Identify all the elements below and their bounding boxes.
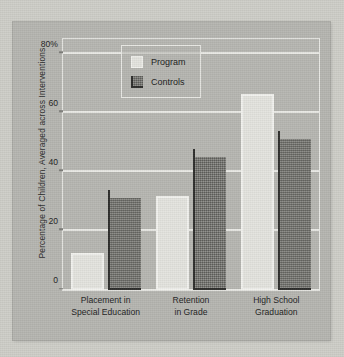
bar-program-placement-in-special-education <box>71 253 104 290</box>
bar-controls-retention-in-grade <box>193 157 226 290</box>
y-axis-tick-80: 80% <box>41 39 58 49</box>
x-axis-label-placement-in-special-education: Placement in Special Education <box>63 295 148 318</box>
y-axis-tick-40: 40 <box>48 157 58 167</box>
x-axis-label-high-school-graduation: High School Graduation <box>234 295 319 318</box>
legend-label-controls: Controls <box>151 77 185 87</box>
legend-swatch-controls-icon <box>131 76 143 88</box>
legend-swatch-program-icon <box>131 56 143 68</box>
y-axis-title: Percentage of Children, Averaged across … <box>37 28 47 278</box>
y-axis-tick-20: 20 <box>48 216 58 226</box>
bar-controls-high-school-graduation <box>278 139 311 290</box>
bar-chart-figure: Percentage of Children, Averaged across … <box>13 22 330 340</box>
legend-label-program: Program <box>151 57 186 67</box>
y-axis-tick-60: 60 <box>48 98 58 108</box>
legend-item-controls: Controls <box>131 74 186 89</box>
chart-panel: Percentage of Children, Averaged across … <box>13 22 330 340</box>
bar-program-high-school-graduation <box>241 94 274 290</box>
chart-legend: Program Controls <box>121 45 201 98</box>
bar-group-high-school-graduation <box>234 39 319 290</box>
bar-controls-placement-in-special-education <box>108 198 141 290</box>
x-axis-label-retention-in-grade: Retention in Grade <box>148 295 233 318</box>
y-axis-tick-0: 0 <box>53 275 58 285</box>
plot-area: 020406080% Placement in Special Educatio… <box>62 38 320 291</box>
legend-item-program: Program <box>131 54 186 69</box>
bar-program-retention-in-grade <box>156 196 189 290</box>
